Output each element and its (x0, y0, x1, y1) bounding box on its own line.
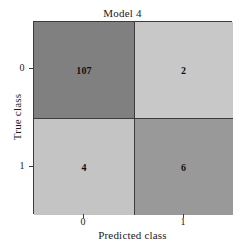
y-tick-mark-0 (29, 68, 33, 69)
matrix-cell-true0-pred1[interactable]: 2 (134, 22, 233, 118)
x-axis-tick-label-1: 1 (177, 216, 189, 227)
x-axis-tick-label-0: 0 (77, 216, 89, 227)
matrix-cell-value: 107 (34, 65, 134, 76)
x-axis-label: Predicted class (33, 229, 232, 241)
matrix-cell-true1-pred1[interactable]: 6 (134, 118, 233, 215)
confusion-matrix-figure: Model 4 107 2 4 6 0 1 0 1 Predicted clas… (0, 0, 245, 249)
matrix-cell-true0-pred0[interactable]: 107 (34, 22, 134, 118)
matrix-cell-true1-pred0[interactable]: 4 (34, 118, 134, 215)
matrix-cell-value: 4 (34, 161, 134, 172)
plot-area: 107 2 4 6 (33, 21, 232, 214)
y-tick-mark-1 (29, 166, 33, 167)
y-axis-label: True class (11, 57, 23, 177)
grid-line-horizontal (34, 118, 233, 119)
chart-title: Model 4 (0, 7, 245, 19)
matrix-cell-value: 2 (134, 65, 233, 76)
matrix-cell-value: 6 (134, 161, 233, 172)
